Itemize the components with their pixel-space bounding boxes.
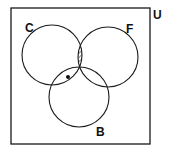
universe-label: U — [153, 8, 162, 22]
marked-point — [66, 75, 70, 79]
venn-diagram: C F B U — [0, 0, 169, 156]
set-f-label: F — [126, 22, 133, 36]
set-b-label: B — [96, 125, 105, 139]
set-b-circle — [49, 67, 109, 127]
set-c-label: C — [25, 21, 34, 35]
set-f-circle — [78, 27, 138, 87]
